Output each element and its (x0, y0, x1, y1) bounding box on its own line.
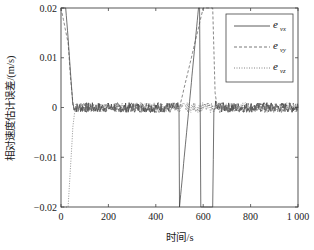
legend-label-sub: vz (280, 67, 286, 74)
legend: evxevyevz (226, 14, 293, 82)
y-tick-label: −0.01 (34, 152, 57, 163)
x-tick-label: 200 (101, 211, 116, 222)
y-tick-label: 0.01 (40, 52, 58, 63)
y-axis-label: 相对速度估计误差/(m/s) (4, 55, 17, 161)
y-tick-label: 0.02 (40, 3, 58, 14)
x-tick-label: 600 (196, 211, 211, 222)
x-tick-label: 0 (59, 211, 64, 222)
legend-label: e (273, 18, 278, 30)
legend-label: e (273, 60, 278, 72)
legend-label-sub: vy (280, 46, 286, 53)
y-tick-label: 0 (52, 102, 57, 113)
x-axis-label: 时间/s (166, 231, 193, 243)
x-tick-label: 800 (243, 211, 258, 222)
legend-label-sub: vx (280, 25, 286, 32)
line-chart: 02004006008001 0000.020.010−0.01−0.02 ev… (0, 0, 314, 250)
y-tick-label: −0.02 (34, 202, 57, 213)
legend-label: e (273, 39, 278, 51)
x-tick-label: 1 000 (287, 211, 310, 222)
x-tick-label: 400 (148, 211, 163, 222)
